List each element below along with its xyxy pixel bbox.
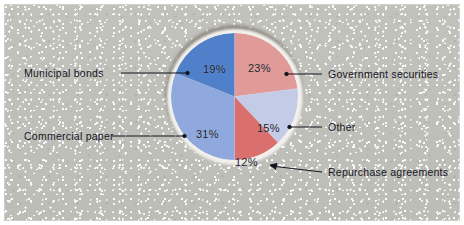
callout-label-other: Other	[328, 121, 356, 133]
slice-value-repurchase-agreements: 12%	[235, 156, 258, 168]
pie-svg	[171, 33, 298, 160]
slice-value-municipal-bonds: 19%	[203, 63, 226, 75]
callout-label-commercial-paper: Commercial paper	[24, 130, 114, 142]
pie-chart-graphic	[165, 17, 307, 179]
pie-chart-figure: 19% 31% 23% 15% 12% Municipal bonds Comm…	[0, 0, 464, 225]
pie-slices	[171, 33, 298, 160]
callout-label-government-securities: Government securities	[328, 68, 438, 80]
slice-value-commercial-paper: 31%	[196, 128, 219, 140]
slice-value-government-securities: 23%	[248, 62, 271, 74]
callout-label-repurchase-agreements: Repurchase agreements	[328, 166, 448, 178]
slice-value-other: 15%	[257, 122, 280, 134]
callout-label-municipal-bonds: Municipal bonds	[24, 67, 104, 79]
